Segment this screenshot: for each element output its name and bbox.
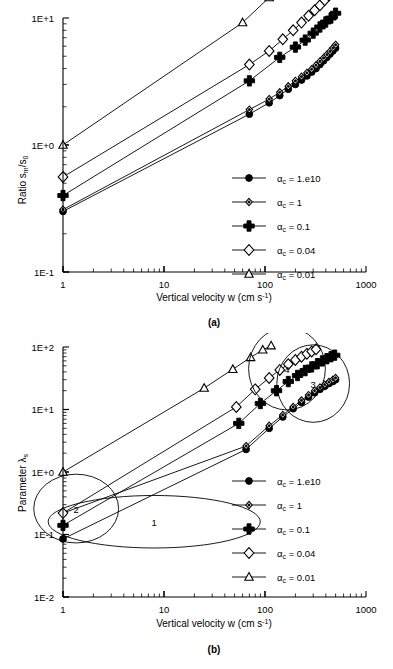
marker-diamond-center (311, 68, 313, 70)
series-path (63, 13, 336, 195)
annotation-label-1: 1 (152, 517, 157, 528)
panel-a-ticks (63, 18, 366, 272)
panel-a-caption: (a) (208, 317, 220, 328)
marker-plus (244, 76, 254, 86)
marker-diamond-center (268, 425, 270, 427)
y-tick-label: 1E-1 (34, 267, 54, 278)
marker-plus (275, 52, 285, 62)
marker-large-open-diamond (264, 373, 274, 384)
marker-open-triangle (229, 365, 237, 373)
marker-diamond-center (282, 414, 284, 416)
marker-diamond-center (324, 384, 326, 386)
marker-diamond-center (334, 44, 336, 46)
series-path (63, 0, 327, 145)
marker-open-triangle (259, 345, 267, 353)
marker-large-open-diamond (244, 245, 254, 256)
series-path (63, 380, 336, 539)
legend-label: αc = 1.e10 (277, 173, 321, 185)
legend-item-3[interactable]: αc = 0.04 (232, 548, 315, 560)
marker-diamond-center (287, 85, 289, 87)
y-tick-label: 1E-2 (34, 592, 54, 603)
marker-plus (290, 42, 300, 52)
panel-a-x-axis-title: Vertical velocity w (cm s-1) (156, 292, 272, 303)
series-small-open-diamond (60, 41, 339, 213)
series-path (63, 45, 336, 210)
marker-large-open-diamond (232, 402, 242, 413)
series-small-open-diamond (60, 374, 339, 516)
legend-item-4[interactable]: αc = 0.01 (232, 572, 315, 584)
panel-b-series (58, 341, 340, 542)
marker-open-triangle (265, 0, 273, 1)
marker-diamond-center (319, 60, 321, 62)
x-tick-label: 10 (159, 604, 170, 615)
marker-diamond-center (245, 445, 247, 447)
y-tick-label: 1E+2 (32, 342, 54, 353)
marker-diamond-center (307, 394, 309, 396)
marker-diamond-center (292, 406, 294, 408)
marker-diamond-center (315, 64, 317, 66)
x-tick-label: 100 (257, 279, 273, 290)
marker-diamond-center (300, 76, 302, 78)
marker-open-triangle (245, 573, 253, 581)
series-open-triangle (59, 341, 276, 475)
x-tick-label: 10 (159, 279, 170, 290)
marker-open-triangle (267, 341, 275, 349)
panel-a-y-axis-title: Ratio sm/s0 (17, 156, 29, 205)
panel-a-svg: 11010010001E-11E+01E+1 Ratio sm/s0 Verti… (0, 0, 393, 336)
x-tick-label: 1 (60, 604, 65, 615)
marker-diamond-center (306, 72, 308, 74)
x-tick-label: 100 (257, 604, 273, 615)
marker-large-open-diamond (275, 365, 285, 376)
series-large-open-diamond (58, 0, 340, 182)
x-tick-label: 1000 (355, 604, 376, 615)
panel-b-y-axis-title: Parameter λs (17, 454, 29, 512)
y-tick-label: 1E+1 (32, 404, 54, 415)
figure-root: 11010010001E-11E+01E+1 Ratio sm/s0 Verti… (0, 0, 393, 669)
marker-plus (244, 221, 254, 231)
series-large-open-diamond (58, 344, 321, 519)
x-tick-label: 1 (60, 279, 65, 290)
marker-diamond-center (332, 47, 334, 49)
marker-diamond-center (326, 54, 328, 56)
marker-large-open-diamond (244, 548, 254, 559)
legend-label: αc = 1.e10 (277, 476, 321, 488)
panel-b: 1234 11010010001E-21E-11E+01E+11E+2 Para… (0, 333, 393, 669)
legend-label: αc = 0.1 (277, 221, 310, 233)
legend-item-4[interactable]: αc = 0.01 (232, 269, 315, 281)
series-path (63, 378, 336, 513)
panel-b-caption: (b) (208, 644, 221, 655)
marker-diamond-center (248, 504, 250, 506)
legend-item-0[interactable]: αc = 1.e10 (232, 173, 321, 185)
panel-b-x-axis-title: Vertical velocity w (cm s-1) (156, 618, 272, 629)
y-tick-label: 1E+0 (32, 140, 54, 151)
legend-label: αc = 1 (277, 500, 302, 512)
marker-diamond-center (334, 377, 336, 379)
legend-item-2[interactable]: αc = 0.1 (232, 524, 310, 536)
panel-b-svg: 1234 11010010001E-21E-11E+01E+11E+2 Para… (0, 333, 393, 669)
legend-label: αc = 0.04 (277, 245, 315, 257)
marker-large-open-diamond (264, 46, 274, 57)
marker-diamond-center (279, 91, 281, 93)
marker-filled-circle (246, 175, 253, 182)
marker-plus (244, 524, 254, 534)
y-tick-label: 1E-1 (34, 529, 54, 540)
legend-item-1[interactable]: αc = 1 (232, 197, 302, 209)
legend-item-2[interactable]: αc = 0.1 (232, 221, 310, 233)
legend-item-3[interactable]: αc = 0.04 (232, 245, 315, 257)
legend-label: αc = 0.1 (277, 524, 310, 536)
legend-item-0[interactable]: αc = 1.e10 (232, 476, 321, 488)
marker-open-triangle (245, 270, 253, 278)
marker-large-open-diamond (245, 59, 255, 70)
annotation-label-3: 3 (311, 379, 316, 390)
legend-item-1[interactable]: αc = 1 (232, 500, 302, 512)
marker-diamond-center (268, 98, 270, 100)
panel-b-legend: αc = 1.e10αc = 1αc = 0.1αc = 0.04αc = 0.… (232, 476, 321, 584)
panel-a-legend: αc = 1.e10αc = 1αc = 0.1αc = 0.04αc = 0.… (232, 173, 321, 281)
panel-b-annotations: 1234 (34, 333, 350, 548)
marker-diamond-center (328, 381, 330, 383)
annotation-label-4: 4 (284, 364, 289, 375)
marker-large-open-diamond (288, 25, 298, 36)
marker-diamond-center (248, 201, 250, 203)
series-open-triangle (59, 0, 331, 148)
marker-filled-circle (246, 478, 253, 485)
